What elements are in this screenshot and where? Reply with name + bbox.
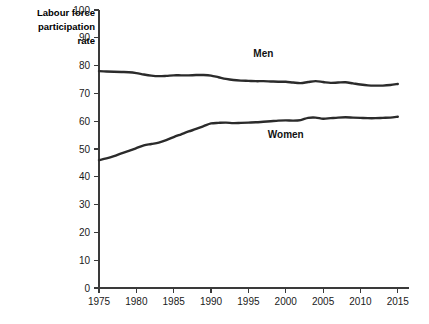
y-axis-ticks: 0102030405060708090100 [73, 5, 99, 294]
series-line-men [99, 71, 398, 86]
series-labels: MenWomen [253, 48, 303, 140]
y-tick-label: 30 [79, 199, 91, 210]
series-lines [99, 71, 398, 160]
x-tick-label: 1985 [163, 296, 186, 307]
x-tick-label: 2015 [387, 296, 410, 307]
y-tick-label: 100 [73, 5, 90, 16]
y-tick-label: 70 [79, 88, 91, 99]
x-tick-label: 1990 [200, 296, 223, 307]
x-tick-label: 2010 [349, 296, 372, 307]
y-tick-label: 60 [79, 116, 91, 127]
x-tick-label: 2005 [312, 296, 335, 307]
x-tick-label: 1995 [237, 296, 260, 307]
x-tick-label: 2000 [275, 296, 298, 307]
y-tick-label: 10 [79, 255, 91, 266]
x-tick-label: 1975 [88, 296, 111, 307]
series-label-men: Men [253, 48, 273, 59]
chart-container: Labour force participation rate 01020304… [0, 0, 429, 324]
x-axis-ticks: 197519801985199019952000200520102015 [88, 288, 409, 307]
series-label-women: Women [268, 129, 304, 140]
y-tick-label: 0 [84, 283, 90, 294]
x-tick-label: 1980 [125, 296, 148, 307]
y-tick-label: 90 [79, 32, 91, 43]
line-chart: Labour force participation rate 01020304… [0, 0, 429, 324]
y-axis-title-line-2: participation [38, 21, 95, 32]
series-line-women [99, 117, 398, 160]
y-tick-label: 80 [79, 60, 91, 71]
y-tick-label: 50 [79, 144, 91, 155]
y-tick-label: 40 [79, 171, 91, 182]
y-tick-label: 20 [79, 227, 91, 238]
